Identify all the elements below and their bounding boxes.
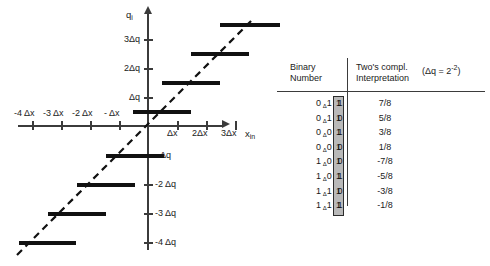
twos-complement-value-cell: 1/8	[356, 142, 414, 152]
x-tick-label-pos2: 2Δx	[192, 128, 208, 138]
x-axis-label-sub: in	[250, 133, 255, 140]
step-segment	[77, 183, 135, 186]
binary-lsb-highlighted: 1	[334, 113, 343, 123]
y-tick-label-pos1: Δq	[96, 92, 140, 102]
y-axis-arrow-icon	[144, 6, 152, 14]
y-tick-label-neg2: -2 Δq	[155, 179, 176, 189]
delta-q-note-suffix: )	[458, 66, 461, 76]
binary-msb: 0	[316, 142, 323, 152]
y-tick-pos1	[144, 97, 153, 99]
table-row: 1Δ1 1 -1/8	[272, 200, 490, 215]
table-body: 0Δ1 1 7/810Δ1 0 5/810Δ0 1 3/810Δ0 0 1/81…	[272, 98, 490, 215]
step-segment	[48, 212, 106, 215]
y-tick-neg3	[144, 213, 153, 215]
table-row: 0Δ0 0 1/8	[272, 142, 490, 157]
x-tick-neg2	[90, 121, 92, 130]
table-header-twos-line2: Interpretation	[356, 73, 409, 84]
x-tick-label-pos1: Δx	[167, 128, 178, 138]
y-axis-label-sub: i	[131, 14, 133, 21]
table-row: 0Δ1 1 7/8	[272, 98, 490, 113]
y-tick-neg2	[144, 184, 153, 186]
table-row: 1Δ0 0 -7/8	[272, 156, 490, 171]
binary-lsb-highlighted: 1	[334, 186, 343, 196]
twos-complement-value-cell: 3/8	[356, 127, 414, 137]
twos-complement-value-cell: -5/8	[356, 171, 414, 181]
x-tick-label-neg2: -2 Δx	[72, 108, 93, 118]
twos-complement-value-cell: -3/8	[356, 186, 414, 196]
x-tick-label-neg3: -3 Δx	[43, 108, 64, 118]
x-tick-neg3	[61, 121, 63, 130]
y-tick-label-pos3: 3Δq	[96, 34, 140, 44]
table-header-twos-line1: Two's compl.	[356, 62, 409, 73]
y-tick-label-neg4: -4 Δq	[155, 237, 176, 247]
x-tick-label-pos3: 3Δx	[221, 128, 237, 138]
table-row: 0Δ1 0 5/8	[272, 113, 490, 128]
table-row: 1Δ1 0 -3/8	[272, 186, 490, 201]
step-segment	[106, 154, 164, 157]
binary-lsb-highlighted: 1	[334, 171, 343, 181]
x-axis-label: xin	[245, 128, 255, 140]
table-row: 0Δ0 1 3/8	[272, 127, 490, 142]
x-tick-neg4	[32, 121, 34, 130]
twos-complement-value-cell: -1/8	[356, 200, 414, 210]
binary-lsb-highlighted: 1	[334, 142, 343, 152]
table-row: 1Δ0 1 -5/8	[272, 171, 490, 186]
step-segment	[162, 81, 220, 84]
step-segment	[19, 241, 76, 244]
binary-msb: 1	[316, 156, 323, 166]
binary-lsb-highlighted: 1	[334, 156, 343, 166]
x-axis-line	[18, 125, 224, 127]
binary-msb: 0	[316, 127, 323, 137]
step-segment	[191, 52, 249, 55]
y-axis-label: qi	[126, 9, 133, 21]
delta-q-note-prefix: (Δq = 2	[422, 66, 451, 76]
binary-msb: 0	[316, 98, 323, 108]
twos-complement-value-cell: 7/8	[356, 98, 414, 108]
table-header-rule	[277, 91, 485, 92]
binary-lsb-highlighted: 1	[334, 98, 343, 108]
step-segment	[133, 110, 191, 113]
table-header-binary-line2: Number	[290, 73, 322, 84]
table-header-twos-complement: Two's compl. Interpretation	[356, 62, 409, 84]
binary-lsb-highlighted: 1	[334, 127, 343, 137]
y-tick-pos3	[144, 39, 153, 41]
y-tick-label-neg3: -3 Δq	[155, 208, 176, 218]
twos-complement-value-cell: 5/8	[356, 113, 414, 123]
table-header-delta-q-note: (Δq = 2-2)	[422, 62, 461, 77]
x-tick-neg1	[119, 121, 121, 130]
x-tick-label-neg1: - Δx	[104, 108, 120, 118]
binary-msb: 1	[316, 186, 323, 196]
quantizer-transfer-figure: -4 Δx -3 Δx -2 Δx - Δx Δx 2Δx 3Δx 3Δq 2Δ…	[0, 0, 262, 266]
y-tick-neg4	[144, 242, 153, 244]
y-tick-pos2	[144, 68, 153, 70]
binary-msb: 1	[316, 200, 323, 210]
y-tick-label-pos2: 2Δq	[96, 63, 140, 73]
x-axis-arrow-icon	[222, 120, 230, 128]
binary-msb: 1	[316, 171, 323, 181]
binary-msb: 0	[316, 113, 323, 123]
table-header-binary-line1: Binary	[290, 62, 322, 73]
twos-complement-value-cell: -7/8	[356, 156, 414, 166]
x-tick-label-neg4: -4 Δx	[14, 108, 35, 118]
table-header-binary-number: Binary Number	[290, 62, 322, 84]
binary-lsb-highlighted: 1	[334, 200, 343, 210]
step-segment	[220, 23, 280, 26]
twos-complement-table: Binary Number Two's compl. Interpretatio…	[272, 56, 490, 216]
